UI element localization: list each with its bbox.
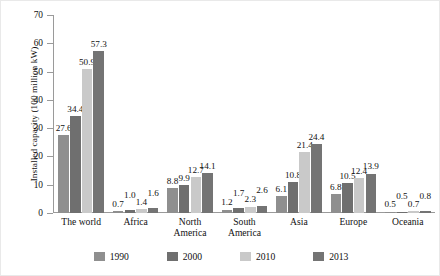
bar[interactable]	[191, 177, 202, 213]
bar[interactable]	[58, 135, 69, 213]
bar[interactable]	[233, 208, 244, 213]
bar-group: 0.50.50.70.8	[381, 15, 435, 213]
bar-slot: 2.6	[257, 15, 268, 213]
y-axis-tick	[47, 15, 53, 16]
legend-item[interactable]: 1990	[94, 251, 129, 262]
y-axis-tick-label: 70	[13, 10, 43, 20]
bar-slot: 12.7	[191, 15, 202, 213]
bar[interactable]	[257, 206, 268, 213]
bar[interactable]	[342, 183, 353, 213]
bar[interactable]	[82, 69, 93, 213]
bar[interactable]	[125, 210, 136, 213]
bar[interactable]	[299, 152, 310, 213]
bar[interactable]	[202, 173, 213, 213]
y-axis-tick	[47, 100, 53, 101]
bar-value-label: 0.5	[384, 200, 395, 209]
y-axis-tick	[47, 72, 53, 73]
bar-slot: 57.3	[93, 15, 104, 213]
y-axis-tick-label: 0	[13, 208, 43, 218]
legend-label: 2013	[329, 251, 348, 262]
bar-value-label: 1.6	[147, 189, 158, 198]
bar[interactable]	[167, 188, 178, 213]
x-axis-category-label: Africa	[108, 216, 162, 238]
legend-label: 1990	[110, 251, 129, 262]
bar-slot: 0.7	[408, 15, 419, 213]
legend-swatch-icon	[167, 252, 178, 261]
bar-slot: 21.4	[299, 15, 310, 213]
bar-slot: 8.8	[167, 15, 178, 213]
bar-group: 0.71.01.41.6	[108, 15, 162, 213]
bar-slot: 10.8	[288, 15, 299, 213]
bar-value-label: 1.0	[124, 191, 135, 200]
bar-group: 8.89.912.714.1	[163, 15, 217, 213]
legend-swatch-icon	[313, 252, 324, 261]
bar-value-label: 24.4	[308, 133, 324, 142]
chart-legend: 1990200020102013	[1, 251, 440, 262]
bar[interactable]	[276, 196, 287, 213]
bar[interactable]	[397, 212, 408, 213]
bar-value-label: 57.3	[91, 40, 107, 49]
bar[interactable]	[408, 211, 419, 213]
bar[interactable]	[93, 51, 104, 213]
legend-item[interactable]: 2000	[167, 251, 202, 262]
bar[interactable]	[70, 116, 81, 213]
bar-value-label: 0.5	[396, 192, 407, 201]
x-axis-category-label: Asia	[272, 216, 326, 238]
bar-value-label: 1.4	[136, 198, 147, 207]
y-axis-tick	[47, 128, 53, 129]
bar[interactable]	[331, 194, 342, 213]
y-axis-tick-label: 10	[13, 180, 43, 190]
bar-group: 6.110.821.424.4	[272, 15, 326, 213]
y-axis-tick	[47, 156, 53, 157]
bar-slot: 0.7	[113, 15, 124, 213]
y-axis-tick-label: 40	[13, 95, 43, 105]
legend-item[interactable]: 2010	[240, 251, 275, 262]
x-axis-category-label: South America	[217, 216, 271, 238]
bar[interactable]	[113, 211, 124, 213]
bar-value-label: 1.2	[221, 198, 232, 207]
bar-slot: 2.3	[245, 15, 256, 213]
bar[interactable]	[354, 178, 365, 213]
bar[interactable]	[311, 144, 322, 213]
legend-label: 2000	[183, 251, 202, 262]
bar-value-label: 6.8	[330, 183, 341, 192]
bar-chart: Installed capacity (100 million kW) 0102…	[0, 0, 440, 276]
bar-slot: 1.2	[222, 15, 233, 213]
legend-item[interactable]: 2013	[313, 251, 348, 262]
bar-slot: 0.8	[420, 15, 431, 213]
bar[interactable]	[385, 212, 396, 213]
bar-slot: 6.1	[276, 15, 287, 213]
bar-slot: 9.9	[179, 15, 190, 213]
bar[interactable]	[420, 211, 431, 213]
bar-slot: 1.0	[125, 15, 136, 213]
bar-slot: 27.6	[58, 15, 69, 213]
y-axis-tick	[47, 185, 53, 186]
legend-label: 2010	[256, 251, 275, 262]
bar-value-label: 0.7	[112, 200, 123, 209]
legend-swatch-icon	[94, 252, 105, 261]
y-axis-tick-label: 20	[13, 151, 43, 161]
bar-value-label: 6.1	[276, 185, 287, 194]
bar[interactable]	[179, 185, 190, 213]
bar[interactable]	[148, 208, 159, 213]
bar-value-label: 1.7	[233, 189, 244, 198]
bar-slot: 10.5	[342, 15, 353, 213]
bar[interactable]	[136, 209, 147, 213]
bar-value-label: 9.9	[178, 174, 189, 183]
bar-slot: 1.4	[136, 15, 147, 213]
bar-value-label: 0.8	[420, 192, 431, 201]
bar-group: 27.634.450.957.3	[54, 15, 108, 213]
y-axis-tick-label: 50	[13, 67, 43, 77]
bar-slot: 6.8	[331, 15, 342, 213]
bar[interactable]	[288, 182, 299, 213]
x-axis-category-label: Oceania	[381, 216, 435, 238]
bar-value-label: 2.3	[245, 195, 256, 204]
y-axis-tick-label: 60	[13, 38, 43, 48]
bar-group: 6.810.512.413.9	[326, 15, 380, 213]
bar[interactable]	[366, 174, 377, 213]
bar[interactable]	[222, 210, 233, 213]
bar[interactable]	[245, 207, 256, 214]
plot-area: 010203040506070 27.634.450.957.30.71.01.…	[53, 15, 435, 213]
bar-value-label: 13.9	[363, 162, 379, 171]
x-axis-category-label: North America	[163, 216, 217, 238]
